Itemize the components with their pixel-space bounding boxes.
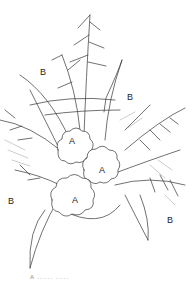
label-b-right: B [167,216,173,225]
label-a-top-flower: A [69,137,75,146]
label-a-bottom-flower: A [72,196,78,205]
figure-caption: A ...... ..... [30,274,69,280]
label-b-upper-left: B [40,68,46,77]
label-b-upper-right: B [127,93,133,102]
label-a-middle-flower: A [99,166,105,175]
botanical-drawing [0,0,194,284]
label-b-left: B [8,197,14,206]
